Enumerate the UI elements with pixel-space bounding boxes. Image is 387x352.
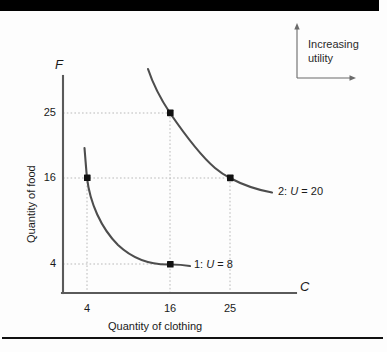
curve-1-prefix: 1: bbox=[194, 258, 203, 270]
curve-1-equals: = bbox=[217, 258, 223, 270]
curve-2-value: 20 bbox=[311, 185, 323, 197]
curve-label-1: 1: U = 8 bbox=[194, 259, 233, 270]
curve-2-prefix: 2: bbox=[278, 185, 287, 197]
arrow-right-icon bbox=[350, 75, 357, 80]
curve-1-value: 8 bbox=[227, 258, 233, 270]
curve-1-symbol: U bbox=[206, 258, 214, 270]
curve-2-equals: = bbox=[301, 185, 307, 197]
data-point-c2-p2 bbox=[227, 175, 234, 182]
axis-lines bbox=[62, 76, 296, 293]
arrow-up-icon bbox=[294, 23, 299, 30]
x-axis-symbol: C bbox=[300, 280, 309, 293]
indifference-curve-2 bbox=[148, 69, 272, 193]
curve-label-2: 2: U = 20 bbox=[278, 186, 323, 197]
data-point-c1-p1 bbox=[84, 174, 91, 181]
increasing-utility-note: Increasing utility bbox=[308, 38, 359, 66]
figure-canvas: F C 25 16 4 4 16 25 Quantity of food Qua… bbox=[0, 0, 387, 352]
y-tick-label-25: 25 bbox=[28, 107, 56, 118]
data-point-c1-p2 bbox=[167, 261, 174, 268]
curve-2-symbol: U bbox=[290, 185, 298, 197]
data-point-c2-p1 bbox=[167, 110, 174, 117]
x-tick-label-16: 16 bbox=[156, 303, 184, 314]
y-axis-title: Quantity of food bbox=[26, 165, 37, 243]
increasing-utility-line2: utility bbox=[308, 52, 359, 66]
x-tick-label-25: 25 bbox=[216, 303, 244, 314]
x-axis-title: Quantity of clothing bbox=[108, 321, 202, 332]
y-axis-symbol: F bbox=[55, 58, 63, 71]
indifference-curve-1 bbox=[85, 148, 191, 266]
x-tick-label-4: 4 bbox=[73, 303, 101, 314]
data-point-markers bbox=[84, 110, 234, 268]
increasing-utility-line1: Increasing bbox=[308, 38, 359, 52]
y-tick-label-4: 4 bbox=[28, 258, 56, 269]
